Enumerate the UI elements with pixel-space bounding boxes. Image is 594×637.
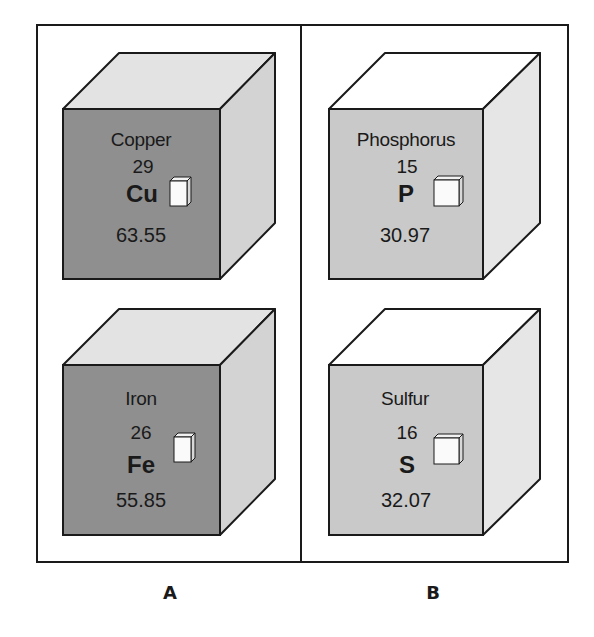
- element-name: Iron: [125, 389, 157, 408]
- small-cube-icon: [170, 177, 191, 206]
- atomic-number: 15: [396, 157, 417, 176]
- atomic-number: 29: [132, 157, 153, 176]
- small-cube-icon: [434, 176, 463, 206]
- element-symbol: P: [398, 182, 414, 206]
- element-name: Copper: [111, 130, 172, 149]
- cube-iron: [63, 309, 275, 535]
- cube-phosphorus: [329, 53, 540, 279]
- element-symbol: S: [399, 453, 415, 477]
- cube-sulfur: [329, 309, 540, 535]
- group-label-b: B: [426, 582, 440, 603]
- cube-copper: [63, 53, 275, 279]
- atomic-mass: 55.85: [116, 490, 166, 510]
- atomic-mass: 30.97: [380, 225, 430, 245]
- atomic-mass: 32.07: [381, 490, 431, 510]
- atomic-number: 26: [130, 423, 151, 442]
- atomic-mass: 63.55: [116, 225, 166, 245]
- element-name: Sulfur: [381, 389, 429, 408]
- element-symbol: Cu: [126, 182, 158, 206]
- diagram-canvas: [0, 0, 594, 637]
- group-label-a: A: [163, 582, 177, 603]
- element-symbol: Fe: [127, 453, 155, 477]
- atomic-number: 16: [396, 423, 417, 442]
- small-cube-icon: [174, 433, 195, 462]
- small-cube-icon: [434, 434, 463, 464]
- element-name: Phosphorus: [357, 130, 455, 149]
